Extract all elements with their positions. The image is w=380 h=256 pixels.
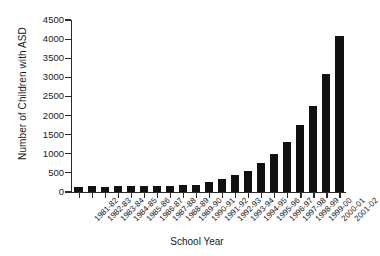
y-axis-tick bbox=[65, 191, 71, 192]
x-axis-tick bbox=[248, 193, 249, 198]
x-axis-tick bbox=[170, 193, 171, 198]
x-axis-tick bbox=[313, 193, 314, 198]
y-axis-tick-label: 1000 bbox=[26, 148, 64, 159]
x-axis-tick bbox=[79, 193, 80, 198]
x-axis-tick bbox=[287, 193, 288, 198]
bar bbox=[283, 142, 291, 192]
y-axis-tick-label: 3500 bbox=[26, 52, 64, 63]
bar bbox=[205, 182, 213, 192]
y-axis-tick bbox=[65, 77, 71, 78]
y-axis-tick-label: 2500 bbox=[26, 90, 64, 101]
bar bbox=[270, 154, 278, 192]
x-axis-tick bbox=[222, 193, 223, 198]
bar bbox=[179, 185, 187, 192]
plot-area bbox=[72, 20, 346, 192]
bar bbox=[322, 74, 330, 192]
bar bbox=[192, 185, 200, 192]
x-axis-tick bbox=[105, 193, 106, 198]
bar bbox=[244, 171, 252, 192]
y-axis-tick-label: 4000 bbox=[26, 33, 64, 44]
y-axis-tick-label: 3000 bbox=[26, 71, 64, 82]
bar bbox=[309, 106, 317, 192]
y-axis-tick bbox=[65, 96, 71, 97]
x-axis-tick bbox=[196, 193, 197, 198]
y-axis-tick bbox=[65, 115, 71, 116]
y-axis-tick bbox=[65, 58, 71, 59]
y-axis-tick bbox=[65, 172, 71, 173]
y-axis-tick-label: 2000 bbox=[26, 110, 64, 121]
x-axis-tick bbox=[118, 193, 119, 198]
x-axis-tick-labels: 1981-821982-831983-841984-851985-861986-… bbox=[0, 192, 358, 238]
x-axis-tick bbox=[339, 193, 340, 198]
bar bbox=[218, 179, 226, 192]
y-axis-tick-label: 500 bbox=[26, 167, 64, 178]
x-axis-tick bbox=[92, 193, 93, 198]
x-axis-tick bbox=[144, 193, 145, 198]
x-axis-title: School Year bbox=[0, 236, 358, 247]
y-axis-tick-label: 4500 bbox=[26, 14, 64, 25]
x-axis-tick bbox=[261, 193, 262, 198]
bar bbox=[231, 175, 239, 192]
y-axis-tick-label: 1500 bbox=[26, 129, 64, 140]
x-axis-tick bbox=[274, 193, 275, 198]
x-axis-tick bbox=[209, 193, 210, 198]
bar bbox=[257, 163, 265, 192]
x-axis-tick bbox=[183, 193, 184, 198]
y-axis-tick bbox=[65, 153, 71, 154]
x-axis-tick bbox=[157, 193, 158, 198]
x-axis-tick bbox=[300, 193, 301, 198]
x-axis-tick bbox=[131, 193, 132, 198]
y-axis-tick bbox=[65, 134, 71, 135]
x-axis-tick bbox=[235, 193, 236, 198]
bar bbox=[296, 125, 304, 192]
bar bbox=[335, 36, 343, 192]
y-axis-tick bbox=[65, 39, 71, 40]
y-axis-tick bbox=[65, 19, 71, 20]
x-axis-tick bbox=[326, 193, 327, 198]
